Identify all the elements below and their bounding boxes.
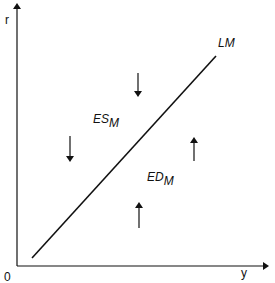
- ed-main: ED: [147, 170, 164, 184]
- y-axis-label: r: [5, 13, 9, 27]
- ed-subscript: M: [164, 174, 174, 188]
- es-subscript: M: [109, 116, 119, 130]
- lm-diagram: r y 0 LM ESM EDM: [0, 0, 275, 283]
- origin-label: 0: [4, 270, 11, 283]
- x-axis-label: y: [241, 266, 247, 280]
- ed-m-label: EDM: [147, 170, 174, 188]
- lm-label: LM: [218, 36, 235, 50]
- lm-curve: [32, 56, 216, 258]
- es-main: ES: [93, 112, 109, 126]
- es-m-label: ESM: [93, 112, 119, 130]
